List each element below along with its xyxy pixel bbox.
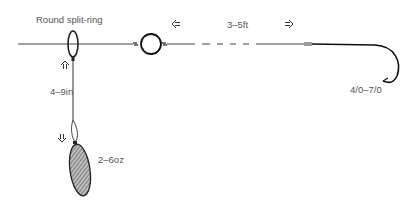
trace-length-label: 3–5ft: [227, 19, 248, 30]
swivel: [133, 34, 167, 54]
arrow-right-icon: [285, 20, 293, 28]
link-length-label: 4–9in: [50, 86, 73, 97]
arrow-left-icon: [172, 20, 180, 28]
split-ring-label: Round split-ring: [36, 14, 103, 25]
arrow-up-icon: [61, 61, 69, 69]
rig-diagram: [0, 0, 416, 201]
trace-line: [167, 42, 311, 46]
hook-size-label: 4/0–7/0: [350, 84, 382, 95]
sinker-weight-label: 2–6oz: [98, 154, 124, 165]
arrow-down-icon: [58, 134, 66, 142]
sinker: [66, 120, 93, 197]
hook: [312, 44, 399, 82]
